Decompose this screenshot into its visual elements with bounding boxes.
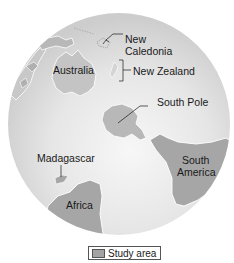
label-south-pole: South Pole (157, 97, 208, 108)
map-legend: Study area (88, 246, 161, 260)
label-new-caledonia-2: Caledonia (125, 46, 172, 57)
label-australia: Australia (53, 65, 94, 76)
label-africa: Africa (66, 200, 93, 211)
label-south-america-1: South (182, 155, 209, 166)
globe-map (0, 0, 234, 263)
study-area-swatch (92, 249, 105, 258)
label-south-america-2: America (177, 167, 216, 178)
label-new-caledonia-1: New (125, 34, 146, 45)
label-madagascar: Madagascar (37, 153, 95, 164)
legend-label-study-area: Study area (108, 248, 156, 259)
label-new-zealand: New Zealand (133, 66, 195, 77)
